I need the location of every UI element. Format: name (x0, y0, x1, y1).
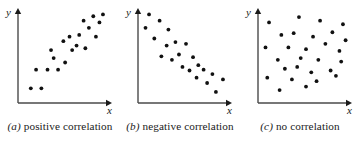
data-point (159, 54, 163, 58)
data-point (82, 19, 86, 23)
data-point (279, 33, 283, 37)
data-point (287, 45, 291, 49)
caption-none: (c) no correlation (240, 120, 360, 132)
data-point (170, 58, 174, 62)
data-point (278, 88, 282, 92)
data-point (283, 67, 287, 71)
panel-positive-correlation: y x (a) positive correlation (0, 0, 120, 142)
data-point (177, 53, 181, 57)
data-point (295, 65, 299, 69)
data-point (181, 65, 185, 69)
data-point (29, 86, 33, 90)
data-point (91, 14, 95, 18)
data-point (61, 39, 65, 43)
data-point (34, 68, 38, 72)
data-point (39, 86, 43, 90)
y-axis-arrowhead (255, 8, 261, 14)
data-point (191, 55, 195, 59)
y-axis-arrowhead (135, 8, 141, 14)
data-point (309, 70, 313, 74)
data-points-positive (29, 13, 105, 91)
data-point (68, 35, 72, 39)
caption-tag-b: (b) (126, 120, 139, 132)
y-axis-label: y (125, 6, 131, 18)
axes-negative: y x (125, 6, 232, 116)
panel-negative-correlation: y x (b) negative correlation (120, 0, 240, 142)
data-point (147, 13, 151, 17)
axes-positive: y x (5, 6, 112, 116)
caption-negative: (b) negative correlation (120, 120, 240, 132)
data-point (49, 48, 53, 52)
data-point (211, 72, 215, 76)
data-point (165, 44, 169, 48)
data-point (297, 15, 301, 19)
data-point (311, 35, 315, 39)
x-axis-label: x (346, 104, 352, 116)
y-axis-arrowhead (15, 8, 21, 14)
caption-text-b: negative correlation (143, 120, 234, 132)
data-point (339, 60, 343, 64)
data-point (292, 31, 296, 35)
data-points-negative (144, 13, 225, 94)
data-point (344, 38, 348, 42)
data-point (63, 61, 67, 65)
data-point (70, 48, 74, 52)
scatter-plot-negative: y x (120, 0, 240, 118)
data-point (195, 76, 199, 80)
scatter-svg-negative: y x (120, 0, 240, 118)
data-point (221, 78, 225, 82)
caption-text-a: positive correlation (24, 120, 113, 132)
data-point (184, 42, 188, 46)
y-axis-label: y (5, 6, 11, 18)
data-point (144, 26, 148, 30)
data-point (52, 56, 56, 60)
data-point (83, 46, 87, 50)
caption-tag-c: (c) (260, 120, 273, 132)
data-point (167, 28, 171, 32)
data-point (323, 42, 327, 46)
data-point (75, 44, 79, 48)
data-point (304, 85, 308, 89)
data-point (290, 78, 294, 82)
caption-positive: (a) positive correlation (0, 120, 120, 132)
data-point (46, 68, 50, 72)
y-axis-label: y (245, 6, 251, 18)
data-points-none (264, 15, 348, 92)
caption-text-c: no correlation (276, 120, 340, 132)
data-point (152, 37, 156, 41)
data-point (265, 76, 269, 80)
scatter-plot-none: y x (240, 0, 360, 118)
data-point (264, 45, 268, 49)
data-point (158, 19, 162, 23)
data-point (331, 30, 335, 34)
axes-none: y x (245, 6, 352, 116)
correlation-figure: y x (a) positive correlation y x (0, 0, 361, 142)
data-point (98, 21, 102, 25)
caption-tag-a: (a) (8, 120, 21, 132)
data-point (196, 63, 200, 67)
data-point (101, 13, 105, 17)
data-point (77, 33, 81, 37)
scatter-svg-none: y x (240, 0, 360, 118)
data-point (318, 19, 322, 23)
data-point (94, 35, 98, 39)
data-point (87, 26, 91, 30)
data-point (334, 74, 338, 78)
data-point (316, 58, 320, 62)
data-point (202, 68, 206, 72)
scatter-plot-positive: y x (0, 0, 120, 118)
data-point (174, 40, 178, 44)
data-point (341, 22, 345, 26)
data-point (299, 56, 303, 60)
data-point (315, 79, 319, 83)
data-point (56, 68, 60, 72)
data-point (329, 69, 333, 73)
x-axis-label: x (226, 104, 232, 116)
data-point (304, 47, 308, 51)
data-point (338, 49, 342, 53)
scatter-svg-positive: y x (0, 0, 120, 118)
data-point (276, 58, 280, 62)
x-axis-label: x (106, 104, 112, 116)
data-point (205, 81, 209, 85)
panel-no-correlation: y x (c) no correlation (240, 0, 360, 142)
